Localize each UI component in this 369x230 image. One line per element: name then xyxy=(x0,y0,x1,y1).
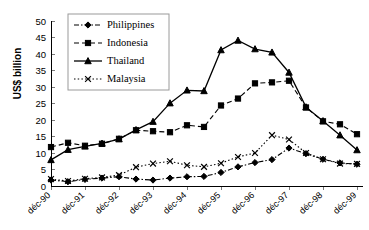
series-philippines xyxy=(48,145,360,185)
y-tick-label: 35 xyxy=(35,65,46,76)
x-tick-label: déc-97 xyxy=(263,190,290,216)
data-point-marker xyxy=(184,174,190,180)
data-point-marker xyxy=(65,140,70,145)
y-tick-label: 20 xyxy=(35,115,46,126)
y-axis-ticks: 05101520253035404550 xyxy=(35,16,55,192)
y-tick-label: 40 xyxy=(35,49,46,60)
x-axis-ticks xyxy=(51,186,357,190)
data-point-marker xyxy=(218,47,224,53)
x-axis-labels: déc-90déc-91déc-92déc-93déc-94déc-95déc-… xyxy=(25,190,358,216)
data-point-marker xyxy=(252,159,258,165)
y-tick-label: 15 xyxy=(35,131,46,142)
data-point-marker xyxy=(150,161,156,167)
line-chart-plot: 05101520253035404550 déc-90déc-91déc-92d… xyxy=(0,0,369,230)
x-tick-label: déc-90 xyxy=(25,190,52,216)
legend-label: Philippines xyxy=(107,19,154,30)
data-point-marker xyxy=(48,177,54,183)
legend-label: Thailand xyxy=(107,55,145,66)
data-point-marker xyxy=(201,164,207,170)
data-point-marker xyxy=(150,129,155,134)
x-tick-label: déc-92 xyxy=(93,190,120,216)
x-tick-label: déc-94 xyxy=(161,190,188,216)
data-point-marker xyxy=(286,137,292,143)
data-point-marker xyxy=(269,80,274,85)
data-point-marker xyxy=(133,176,139,182)
data-point-marker xyxy=(167,175,173,181)
legend-label: Malaysia xyxy=(107,73,146,84)
data-point-marker xyxy=(218,160,224,166)
data-point-marker xyxy=(201,173,207,179)
x-tick-label: déc-93 xyxy=(127,190,154,216)
data-point-marker xyxy=(337,122,342,127)
legend-label: Indonesia xyxy=(107,37,148,48)
x-tick-label: déc-95 xyxy=(195,190,222,216)
data-point-marker xyxy=(150,177,156,183)
data-point-marker xyxy=(48,144,53,149)
y-tick-label: 5 xyxy=(41,164,46,175)
data-point-marker xyxy=(252,81,257,86)
data-point-marker xyxy=(269,132,275,138)
y-tick-label: 25 xyxy=(35,98,46,109)
data-point-marker xyxy=(235,164,241,170)
data-point-marker xyxy=(48,157,54,163)
data-point-marker xyxy=(286,145,292,151)
x-tick-label: déc-98 xyxy=(297,190,324,216)
y-tick-label: 50 xyxy=(35,16,46,27)
x-tick-label: déc-96 xyxy=(229,190,256,216)
y-tick-label: 10 xyxy=(35,148,46,159)
data-point-marker xyxy=(286,78,291,83)
data-point-marker xyxy=(201,124,206,129)
data-point-marker xyxy=(184,123,189,128)
y-tick-label: 30 xyxy=(35,82,46,93)
data-point-marker xyxy=(235,37,241,43)
data-point-marker xyxy=(218,103,223,108)
chart-legend: PhilippinesIndonesiaThailandMalaysia xyxy=(68,14,169,90)
data-point-marker xyxy=(269,157,275,163)
x-tick-label: déc-99 xyxy=(331,190,358,216)
data-point-marker xyxy=(235,96,240,101)
data-point-marker xyxy=(252,46,258,52)
data-point-marker xyxy=(354,132,359,137)
x-tick-label: déc-91 xyxy=(59,190,86,216)
data-point-marker xyxy=(85,40,90,45)
y-tick-label: 45 xyxy=(35,32,46,43)
chart-container: US$ billion 05101520253035404550 déc-90d… xyxy=(0,0,369,230)
data-point-marker xyxy=(167,130,172,135)
data-point-marker xyxy=(218,169,224,175)
